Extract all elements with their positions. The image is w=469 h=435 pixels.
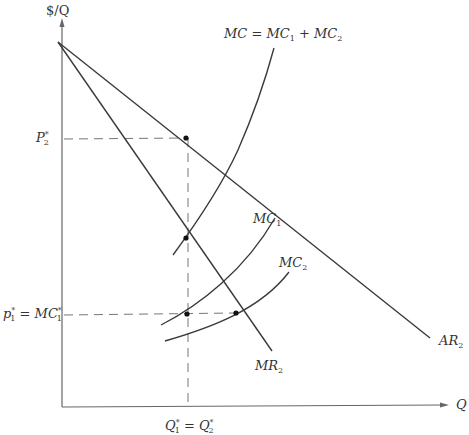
ar2-line (58, 42, 430, 338)
mr2-line (58, 42, 272, 351)
points (183, 135, 238, 316)
price-point (183, 135, 188, 140)
mc-mr-intersection-point (183, 235, 188, 240)
x-axis-label: Q (456, 398, 467, 411)
p1-mc1-label: p*1 = MC*1 (3, 307, 62, 323)
mc-total-label: MC = MC1 + MC2 (224, 27, 342, 43)
mr2-text: MR (255, 358, 278, 373)
mc2-label: MC2 (279, 256, 307, 272)
mc1-point (184, 311, 189, 316)
mc-total-text: MC = MC (224, 26, 290, 41)
mc2-mr2-intersection-point (233, 310, 238, 315)
p1-dashed-line (64, 313, 236, 315)
p1-eq: = MC (15, 306, 57, 321)
ar2-label: AR2 (439, 334, 463, 350)
mr2-label: MR2 (255, 359, 283, 375)
q-eq: = Q (180, 418, 210, 433)
economics-diagram (0, 0, 469, 435)
mc-total-sub2: 2 (337, 34, 342, 43)
mc1-curve (161, 218, 275, 325)
y-axis-label-text: $/Q (46, 3, 69, 18)
p2-sub: 2 (44, 138, 49, 147)
mc1-sub: 1 (276, 219, 281, 228)
ar2-sub: 2 (458, 341, 463, 350)
ar2-text: AR (439, 333, 458, 348)
x-axis (62, 405, 443, 407)
mr2-sub: 2 (278, 366, 283, 375)
mc2-sub: 2 (302, 263, 307, 272)
mc1star-sub: 1 (57, 314, 62, 323)
mc2-text: MC (279, 255, 302, 270)
y-axis-arrow-icon (60, 18, 65, 27)
guide-lines (64, 138, 236, 405)
curves (58, 42, 430, 351)
q-star-label: Q*1 = Q*2 (165, 419, 214, 435)
x-axis-label-text: Q (456, 397, 467, 412)
q2-sub: 2 (209, 426, 214, 435)
mc2-curve (165, 272, 289, 341)
mc1-text: MC (253, 211, 276, 226)
x-axis-arrow-icon (440, 403, 449, 408)
y-axis-label: $/Q (46, 4, 69, 17)
p2-label: P*2 (36, 131, 49, 147)
mc1-label: MC1 (253, 212, 281, 228)
mc-total-plus: + MC (295, 26, 337, 41)
